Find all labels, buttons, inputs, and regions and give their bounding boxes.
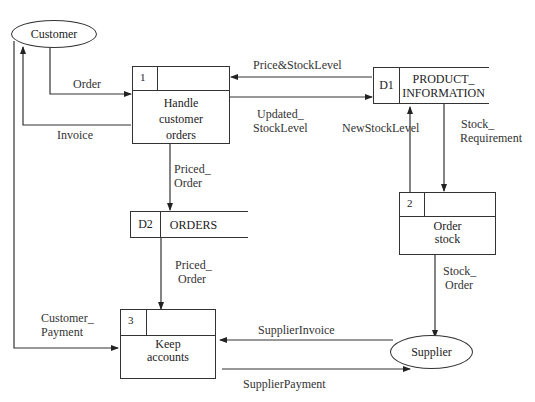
datastore-id: D2 [130,212,161,237]
flow-label-updated-stock-level: Updated_ StockLevel [253,107,308,135]
process-header [157,67,229,91]
customer-entity[interactable]: Customer [11,20,97,48]
process-header [146,310,215,336]
datastore-name: ORDERS [159,212,228,237]
supplier-label: Supplier [411,345,452,360]
flow-label-customer-payment: Customer_ Payment [41,311,94,339]
datastore-id: D1 [373,68,400,103]
process-name: Order stock [400,220,495,246]
process-keep-accounts[interactable]: 3 Keep accounts [120,309,216,379]
flow-label-stock-requirement: Stock_ Requirement [460,117,522,145]
process-order-stock[interactable]: 2 Order stock [399,192,496,255]
datastore-name: PRODUCT_ INFORMATION [398,68,489,103]
supplier-entity[interactable]: Supplier [390,335,473,369]
flow-label-order: Order [73,77,101,91]
process-name: Handle customer orders [133,95,229,143]
process-number: 3 [121,310,147,336]
flow-label-supplier-invoice: SupplierInvoice [258,323,335,337]
datastore-orders[interactable]: D2 ORDERS [130,211,248,238]
process-number: 2 [400,193,425,217]
flow-label-invoice: Invoice [57,128,93,142]
flow-label-price-stock-level: Price&StockLevel [253,58,342,72]
process-number: 1 [133,67,158,91]
process-name: Keep accounts [121,338,215,364]
process-header [424,193,495,217]
flow-label-stock-order: Stock_ Order [443,264,476,292]
process-handle-customer-orders[interactable]: 1 Handle customer orders [132,66,230,144]
flow-label-supplier-payment: SupplierPayment [243,377,326,391]
flow-label-new-stock-level: NewStockLevel [342,121,419,135]
customer-label: Customer [31,27,78,42]
datastore-product-information[interactable]: D1 PRODUCT_ INFORMATION [373,67,489,104]
flow-label-priced-order-to-d2: Priced_ Order [174,162,211,190]
flow-label-priced-order-to-p3: Priced_ Order [175,258,212,286]
